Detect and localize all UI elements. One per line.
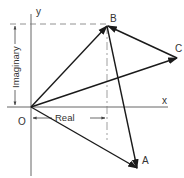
- vector-c-to-b: [108, 26, 177, 58]
- complex-vector-diagram: y x O Imaginary Real B C A: [0, 0, 184, 178]
- y-axis-label: y: [36, 6, 41, 17]
- point-a-label: A: [142, 155, 149, 166]
- imaginary-label: Imaginary: [10, 46, 21, 88]
- origin-label: O: [18, 116, 26, 127]
- vector-o-to-c: [31, 58, 177, 107]
- point-b-label: B: [110, 13, 117, 24]
- x-axis-label: x: [162, 95, 167, 106]
- vector-o-to-a: [31, 107, 137, 168]
- point-c-label: C: [175, 43, 182, 54]
- real-label: Real: [55, 112, 75, 123]
- vector-b-to-a: [107, 26, 137, 168]
